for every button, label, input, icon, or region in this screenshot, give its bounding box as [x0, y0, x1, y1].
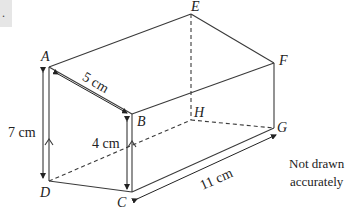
note-line-1: Not drawn	[289, 155, 344, 173]
vertex-label-A: A	[41, 50, 50, 64]
edge-EF	[191, 14, 274, 63]
vertex-label-G: G	[277, 121, 287, 135]
edge-AE	[49, 14, 191, 67]
vertex-label-E: E	[191, 0, 200, 14]
dim-label-BC: 4 cm	[92, 137, 120, 151]
dim-label-AD: 7 cm	[8, 126, 36, 140]
vertex-label-D: D	[40, 186, 50, 200]
edge-DC	[49, 181, 132, 192]
edge-HG	[191, 120, 274, 128]
vertex-label-C: C	[117, 196, 126, 210]
vertex-label-H: H	[194, 106, 204, 120]
vertex-label-F: F	[279, 54, 288, 68]
edge-DH	[49, 120, 191, 181]
vertex-label-B: B	[137, 115, 146, 129]
note-line-2: accurately	[289, 173, 344, 191]
not-drawn-accurately-note: Not drawn accurately	[289, 155, 344, 190]
